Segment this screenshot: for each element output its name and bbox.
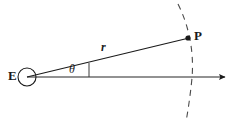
point-p-marker-dot <box>185 35 190 40</box>
radius-ray-line <box>27 39 187 78</box>
label-angle-theta: θ <box>69 63 75 75</box>
diagram-canvas <box>0 0 245 127</box>
dashed-wavefront-arc <box>178 4 192 122</box>
polar-diagram-figure: E P r θ <box>0 0 245 127</box>
label-point-p: P <box>194 29 202 42</box>
label-radius-r: r <box>101 41 106 53</box>
label-origin-e: E <box>8 69 17 82</box>
